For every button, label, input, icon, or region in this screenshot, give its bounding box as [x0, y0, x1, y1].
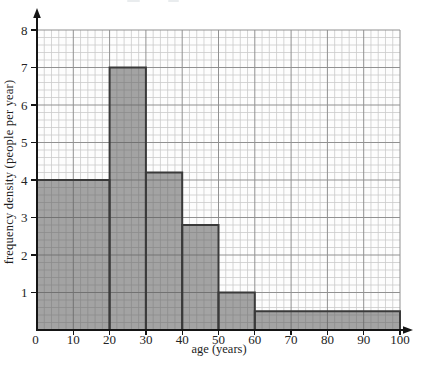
y-tick-label: 1 — [21, 285, 28, 300]
histogram-figure: 123456780102030405060708090100 frequency… — [0, 0, 425, 367]
y-axis-title: frequency density (people per year) — [1, 22, 17, 322]
histogram-bar — [146, 173, 182, 331]
y-tick-label: 6 — [21, 98, 28, 113]
y-tick-label: 3 — [21, 210, 28, 225]
y-tick-label: 5 — [21, 135, 28, 150]
y-tick-label: 2 — [21, 248, 28, 263]
y-tick-label: 4 — [21, 173, 28, 188]
histogram-chart-canvas: 123456780102030405060708090100 — [0, 0, 425, 367]
y-tick-label: 8 — [21, 23, 28, 38]
histogram-bar — [182, 225, 218, 330]
histogram-bar — [37, 180, 110, 330]
histogram-bar — [110, 68, 146, 331]
y-axis-arrow-icon — [33, 8, 41, 18]
y-tick-label: 7 — [21, 60, 28, 75]
histogram-bar — [255, 311, 400, 330]
histogram-bar — [219, 293, 255, 331]
x-axis-title: age (years) — [37, 342, 401, 357]
